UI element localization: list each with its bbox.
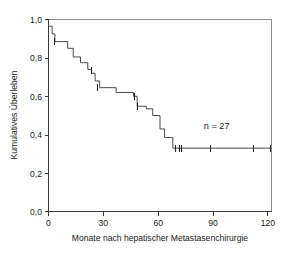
x-tick-label-60: 60 [153,218,163,228]
y-tick-label-04: 0,4 [30,130,42,140]
x-axis-ticks [49,212,268,216]
x-axis-title: Monate nach hepatischer Metastasenchirur… [72,233,248,243]
x-tick-label-30: 30 [99,218,109,228]
sample-size-annotation: n = 27 [204,121,230,131]
y-tick-label-1: 1,0 [30,15,42,25]
kaplan-meier-figure: 1,0 0,8 0,6 0,4 0,2 0,0 0 30 60 90 120 M… [0,0,288,253]
survival-chart: 1,0 0,8 0,6 0,4 0,2 0,0 0 30 60 90 120 M… [0,0,288,253]
x-tick-label-90: 90 [208,218,218,228]
survival-step-curve [49,26,272,148]
y-tick-label-08: 0,8 [30,53,42,63]
y-axis-ticks [45,20,49,212]
y-tick-label-02: 0,2 [30,169,42,179]
censor-marks-group [55,38,271,152]
y-tick-label-00: 0,0 [30,207,42,217]
x-tick-label-120: 120 [261,218,276,228]
y-axis-title: Kumulatives Überleben [9,70,19,159]
x-tick-label-0: 0 [46,218,51,228]
y-tick-label-06: 0,6 [30,92,42,102]
